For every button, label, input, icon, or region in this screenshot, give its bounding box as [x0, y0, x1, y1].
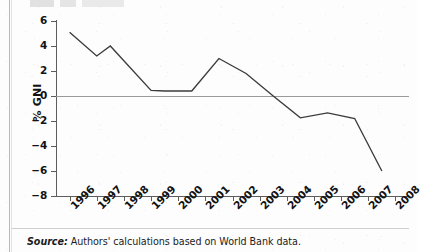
source-caption: Source: Authors' calculations based on W… [27, 236, 301, 247]
source-caption-text: Authors' calculations based on World Ban… [68, 236, 301, 247]
caption-divider [12, 228, 409, 229]
series-line-percent-gni [70, 32, 382, 171]
source-caption-label: Source: [27, 236, 68, 247]
